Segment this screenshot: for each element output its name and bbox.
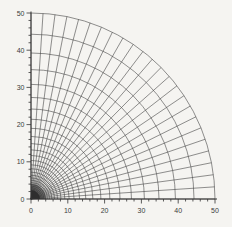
x-tick-label: 40 bbox=[174, 207, 182, 214]
y-tick-label: 20 bbox=[17, 121, 25, 128]
y-tick-label: 50 bbox=[17, 10, 25, 17]
x-tick-label: 20 bbox=[101, 207, 109, 214]
x-tick-label: 50 bbox=[211, 207, 219, 214]
y-tick-label: 10 bbox=[17, 158, 25, 165]
x-tick-label: 10 bbox=[64, 207, 72, 214]
scanned-figure-page: 0102030405001020304050 bbox=[0, 0, 232, 227]
x-tick-label: 30 bbox=[138, 207, 146, 214]
y-tick-label: 30 bbox=[17, 84, 25, 91]
polar-mesh-chart: 0102030405001020304050 bbox=[0, 0, 232, 227]
x-tick-label: 0 bbox=[29, 207, 33, 214]
y-tick-label: 40 bbox=[17, 47, 25, 54]
y-tick-label: 0 bbox=[21, 196, 25, 203]
